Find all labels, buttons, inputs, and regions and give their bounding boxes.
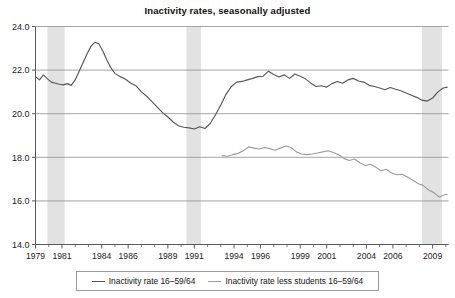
legend-swatch-primary bbox=[92, 281, 105, 282]
svg-text:16.0: 16.0 bbox=[12, 196, 30, 206]
axis-lines bbox=[36, 27, 449, 245]
svg-text:1989: 1989 bbox=[158, 251, 177, 261]
chart-svg: 14.016.018.020.022.024.0 197919811984198… bbox=[0, 0, 455, 268]
chart-legend: Inactivity rate 16–59/64 Inactivity rate… bbox=[76, 271, 379, 291]
svg-text:2006: 2006 bbox=[383, 251, 402, 261]
band-recession-2008 bbox=[422, 27, 442, 245]
svg-text:1999: 1999 bbox=[291, 251, 310, 261]
svg-text:20.0: 20.0 bbox=[12, 109, 30, 119]
y-tick-marks bbox=[32, 27, 36, 245]
svg-text:2004: 2004 bbox=[357, 251, 376, 261]
series-lines bbox=[36, 42, 448, 197]
legend-item-inactivity-rate: Inactivity rate 16–59/64 bbox=[92, 277, 196, 285]
grid-lines bbox=[36, 27, 449, 201]
legend-label-primary: Inactivity rate 16–59/64 bbox=[109, 277, 196, 285]
series-line-1 bbox=[222, 146, 447, 197]
svg-text:1996: 1996 bbox=[251, 251, 270, 261]
svg-text:2009: 2009 bbox=[423, 251, 442, 261]
svg-text:1991: 1991 bbox=[185, 251, 204, 261]
legend-label-secondary: Inactivity rate less students 16–59/64 bbox=[225, 277, 363, 285]
band-recession-1980 bbox=[47, 27, 64, 245]
svg-text:18.0: 18.0 bbox=[12, 153, 30, 163]
y-axis-labels: 14.016.018.020.022.024.0 bbox=[12, 22, 30, 250]
legend-item-inactivity-rate-less-students: Inactivity rate less students 16–59/64 bbox=[208, 277, 363, 285]
plot-area: 14.016.018.020.022.024.0 197919811984198… bbox=[0, 0, 455, 268]
legend-swatch-secondary bbox=[208, 281, 221, 282]
series-line-0 bbox=[36, 42, 448, 129]
x-tick-marks bbox=[36, 245, 446, 249]
svg-text:1986: 1986 bbox=[119, 251, 138, 261]
svg-text:22.0: 22.0 bbox=[12, 65, 30, 75]
svg-text:1981: 1981 bbox=[52, 251, 71, 261]
x-axis-labels: 1979198119841986198919911994199619992001… bbox=[26, 251, 442, 261]
svg-text:24.0: 24.0 bbox=[12, 22, 30, 32]
svg-text:14.0: 14.0 bbox=[12, 240, 30, 250]
svg-text:1994: 1994 bbox=[224, 251, 243, 261]
svg-text:1979: 1979 bbox=[26, 251, 45, 261]
chart-page: Inactivity rates, seasonally adjusted 14… bbox=[0, 0, 455, 298]
svg-text:1984: 1984 bbox=[92, 251, 111, 261]
band-recession-1990 bbox=[186, 27, 201, 245]
svg-text:2001: 2001 bbox=[317, 251, 336, 261]
